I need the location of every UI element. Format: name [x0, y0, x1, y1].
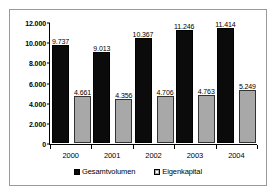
bar-group: 9.7374.661: [51, 23, 92, 143]
x-axis-tick-label: 2001: [91, 151, 132, 160]
x-axis-tick-label: 2002: [133, 151, 174, 160]
y-axis-tick-mark: [47, 23, 50, 24]
bar-value-label: 4.706: [156, 89, 173, 96]
y-axis-tick-mark: [47, 83, 50, 84]
bar-value-label: 9.737: [52, 38, 69, 45]
x-axis-tick-mark: [174, 145, 175, 149]
bar-gesamtvolumen: 11.246: [176, 30, 193, 143]
bar-gesamtvolumen: 10.367: [135, 38, 152, 143]
bar-value-label: 4.661: [74, 89, 91, 96]
bar-value-label: 5.249: [239, 83, 256, 90]
bar-group: 10.3674.706: [133, 23, 174, 143]
bar-value-label: 11.246: [174, 23, 194, 30]
legend-label: Gesamtvolumen: [82, 167, 135, 176]
x-axis-tick-mark: [216, 145, 217, 149]
y-axis-tick-mark: [47, 103, 50, 104]
y-axis-tick-mark: [47, 123, 50, 124]
bar-group: 11.4145.249: [216, 23, 257, 143]
bar-eigenkapital: 4.763: [198, 95, 215, 143]
chart-figure: 02.0004.0006.0008.00010.00012.000 9.7374…: [9, 9, 267, 186]
bar-value-label: 10.367: [133, 31, 154, 38]
bar-gesamtvolumen: 9.013: [93, 52, 110, 143]
y-axis-tick-mark: [47, 43, 50, 44]
legend-swatch-gesamtvolumen: [74, 169, 80, 175]
y-axis-tick-mark: [47, 63, 50, 64]
x-axis-tick-mark: [257, 145, 258, 149]
bar-value-label: 9.013: [93, 45, 110, 52]
bar-groups: 9.7374.6619.0134.35610.3674.70611.2464.7…: [51, 23, 257, 143]
x-axis-tick-label: 2000: [50, 151, 91, 160]
bar-value-label: 4.763: [198, 88, 215, 95]
x-axis-tick-label: 2003: [174, 151, 215, 160]
bar-eigenkapital: 5.249: [239, 90, 256, 143]
chart-legend: GesamtvolumenEigenkapital: [10, 167, 266, 176]
plot-area: 02.0004.0006.0008.00010.00012.000 9.7374…: [49, 23, 257, 145]
bar-group: 9.0134.356: [92, 23, 133, 143]
x-axis-tick-mark: [133, 145, 134, 149]
x-axis-tick-label: 2004: [216, 151, 257, 160]
bar-eigenkapital: 4.661: [74, 96, 91, 143]
bar-gesamtvolumen: 9.737: [52, 45, 69, 143]
bar-group: 11.2464.763: [175, 23, 216, 143]
legend-swatch-eigenkapital: [154, 169, 160, 175]
bar-eigenkapital: 4.356: [115, 99, 132, 143]
bar-eigenkapital: 4.706: [157, 96, 174, 143]
legend-item: Gesamtvolumen: [74, 167, 135, 176]
x-axis-tick-marks: [49, 145, 257, 149]
x-axis-tick-mark: [91, 145, 92, 149]
bar-gesamtvolumen: 11.414: [217, 28, 234, 143]
legend-label: Eigenkapital: [162, 167, 202, 176]
legend-item: Eigenkapital: [154, 167, 202, 176]
bar-value-label: 11.414: [215, 21, 235, 28]
bar-value-label: 4.356: [115, 92, 132, 99]
x-axis: 20002001200220032004: [49, 145, 257, 167]
x-axis-labels: 20002001200220032004: [50, 151, 257, 160]
x-axis-tick-mark: [50, 145, 51, 149]
